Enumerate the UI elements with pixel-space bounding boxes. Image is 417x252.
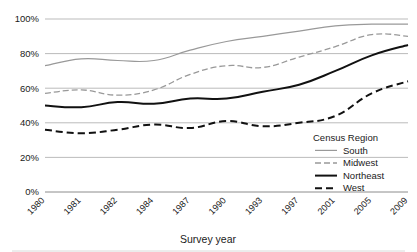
legend-label-northeast: Northeast [343, 170, 385, 181]
legend-label-west: West [343, 182, 365, 193]
legend-label-midwest: Midwest [343, 157, 378, 168]
y-tick-label: 40% [20, 117, 40, 128]
y-tick-label: 100% [15, 13, 40, 24]
y-tick-label: 20% [20, 152, 40, 163]
chart-canvas: 0%20%40%60%80%100% 198019811982198419871… [0, 0, 417, 252]
chart-background [0, 0, 417, 252]
y-tick-label: 0% [25, 186, 39, 197]
line-chart-figure: 0%20%40%60%80%100% 198019811982198419871… [0, 0, 417, 252]
legend-label-south: South [343, 145, 368, 156]
y-tick-label: 60% [20, 83, 40, 94]
y-tick-label: 80% [20, 48, 40, 59]
legend-title: Census Region [313, 132, 378, 143]
x-axis-title: Survey year [180, 233, 237, 245]
